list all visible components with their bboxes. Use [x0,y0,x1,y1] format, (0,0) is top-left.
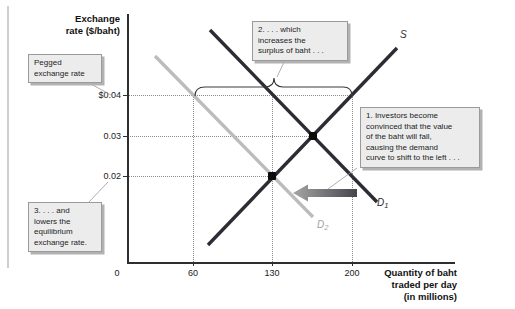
callout-pegged-rate: Pegged exchange rate [28,54,102,83]
callout-note2-line3: surplus of baht . . . [258,46,342,57]
callout-note2-line2: increases the [258,36,342,47]
callout-note2-line1: 2. . . . which [258,25,342,36]
callout-note1-line4: causing the demand [366,143,474,154]
callout-pegged-line1: Pegged [34,58,96,69]
callout-note1-line3: of the baht will fall, [366,132,474,143]
callout-note3-line1: 3. . . . and [34,206,96,217]
demand1-curve-label: D1 [377,197,388,210]
callout-note2-surplus: 2. . . . which increases the surplus of … [252,21,348,61]
pointer-line-pegged [89,83,111,95]
callout-note3-lowers-rate: 3. . . . and lowers the equilibrium exch… [28,202,102,252]
callout-note3-line2: lowers the [34,217,96,228]
demand-shift-arrow-icon [293,185,357,202]
callout-note1-line2: convinced that the value [366,122,474,133]
callout-note3-line4: exchange rate. [34,238,96,249]
demand2-label-sub: 2 [324,223,328,232]
pointer-line-note2 [277,58,286,77]
pointer-line-note3 [88,182,108,203]
demand1-label-sub: 1 [384,201,388,210]
supply-curve-label: S [400,29,407,40]
demand2-curve-label: D2 [317,219,328,232]
callout-pegged-line2: exchange rate [34,69,96,80]
callout-note1-line1: 1. Investors become [366,111,474,122]
exchange-rate-figure: Exchange rate ($/baht) Quantity of baht … [0,0,515,309]
demand-curve-d2 [155,56,313,217]
callout-note1-investors: 1. Investors become convinced that the v… [360,107,480,168]
equilibrium-dot-initial [309,132,317,140]
equilibrium-dot-new [268,172,276,180]
callout-note1-line5: curve to shift to the left . . . [366,153,474,164]
callout-note3-line3: equilibrium [34,227,96,238]
